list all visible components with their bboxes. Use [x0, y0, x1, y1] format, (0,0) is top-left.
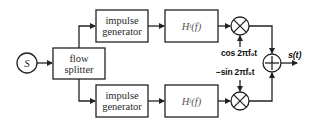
- lower-generator-line2: generator: [102, 101, 142, 112]
- upper-filter-symbol: H: [182, 21, 190, 32]
- upper-generator-line1: impulse: [105, 15, 138, 26]
- upper-generator-label: impulse generator: [96, 10, 148, 42]
- block-diagram: [0, 0, 318, 127]
- sin-carrier-label: −sin 2πf₀t: [216, 67, 254, 77]
- splitter-label-line2: splitter: [64, 64, 93, 75]
- cos-carrier-label: cos 2πf₀t: [221, 48, 257, 58]
- splitter-label-line1: flow: [69, 53, 88, 64]
- lower-filter-label: Hi(f): [165, 85, 218, 117]
- lower-filter-arg: (f): [191, 96, 201, 107]
- source-label: S: [17, 53, 37, 73]
- lower-filter-symbol: H: [182, 96, 190, 107]
- lower-generator-line1: impulse: [105, 90, 138, 101]
- arrow-lower-mixer-to-adder: [249, 73, 272, 101]
- arrow-splitter-to-upper-gen: [79, 26, 95, 48]
- lower-generator-label: impulse generator: [96, 85, 148, 117]
- output-label: s(t): [288, 50, 301, 60]
- upper-filter-label: Hi(f): [165, 10, 218, 42]
- upper-generator-line2: generator: [102, 26, 142, 37]
- arrow-splitter-to-lower-gen: [79, 79, 95, 101]
- upper-filter-arg: (f): [191, 21, 201, 32]
- splitter-label: flow splitter: [53, 48, 105, 79]
